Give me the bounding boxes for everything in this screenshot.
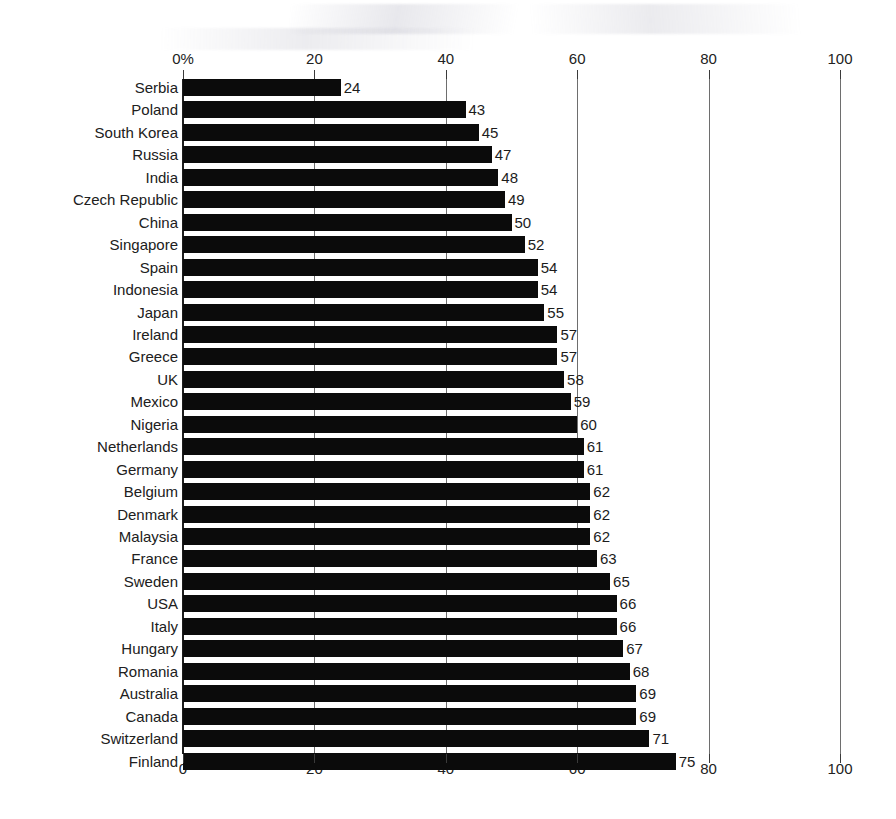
bar-row[interactable]: Singapore52: [0, 236, 896, 253]
category-label: Italy: [150, 618, 178, 635]
bar-value-label: 60: [577, 416, 597, 433]
bar-row[interactable]: Serbia24: [0, 79, 896, 96]
bar[interactable]: [183, 730, 649, 747]
bar-row[interactable]: Malaysia62: [0, 528, 896, 545]
bar-value-label: 24: [341, 79, 361, 96]
bar[interactable]: [183, 483, 590, 500]
bar-value-label: 67: [623, 640, 643, 657]
category-label: Sweden: [124, 573, 178, 590]
bar-value-label: 69: [636, 708, 656, 725]
bar[interactable]: [183, 708, 636, 725]
category-label: India: [145, 169, 178, 186]
bar-value-label: 45: [479, 124, 499, 141]
bar-value-label: 48: [498, 169, 518, 186]
bar[interactable]: [183, 214, 512, 231]
bar-row[interactable]: Finland75: [0, 753, 896, 770]
bar-row[interactable]: USA66: [0, 595, 896, 612]
bar[interactable]: [183, 393, 571, 410]
bar[interactable]: [183, 79, 341, 96]
bar-row[interactable]: Denmark62: [0, 506, 896, 523]
bar[interactable]: [183, 685, 636, 702]
bar[interactable]: [183, 753, 676, 770]
bar[interactable]: [183, 506, 590, 523]
category-label: China: [139, 214, 178, 231]
scan-artifact: [290, 4, 890, 34]
bar[interactable]: [183, 348, 557, 365]
category-label: Malaysia: [119, 528, 178, 545]
bar[interactable]: [183, 416, 577, 433]
bar-value-label: 66: [617, 618, 637, 635]
bar-value-label: 68: [630, 663, 650, 680]
bar-row[interactable]: Australia69: [0, 685, 896, 702]
category-label: Czech Republic: [73, 191, 178, 208]
tick-mark-top-100: [840, 70, 841, 79]
bar-row[interactable]: India48: [0, 169, 896, 186]
category-label: South Korea: [95, 124, 178, 141]
bar[interactable]: [183, 281, 538, 298]
bar[interactable]: [183, 595, 617, 612]
bar[interactable]: [183, 236, 525, 253]
category-label: Greece: [129, 348, 178, 365]
x-tick-label-top-5: 100: [827, 50, 852, 68]
bar[interactable]: [183, 169, 498, 186]
bar[interactable]: [183, 618, 617, 635]
bar[interactable]: [183, 259, 538, 276]
tick-mark-bottom-40: [446, 754, 447, 763]
bar-row[interactable]: Sweden65: [0, 573, 896, 590]
bar-row[interactable]: UK58: [0, 371, 896, 388]
bar-value-label: 62: [590, 506, 610, 523]
bar-row[interactable]: Czech Republic49: [0, 191, 896, 208]
bar[interactable]: [183, 573, 610, 590]
bar-row[interactable]: Ireland57: [0, 326, 896, 343]
bar[interactable]: [183, 371, 564, 388]
bar-row[interactable]: Greece57: [0, 348, 896, 365]
bar[interactable]: [183, 304, 544, 321]
tick-mark-bottom-80: [709, 754, 710, 763]
bar-row[interactable]: Italy66: [0, 618, 896, 635]
bar[interactable]: [183, 191, 505, 208]
bar[interactable]: [183, 101, 466, 118]
category-label: USA: [147, 595, 178, 612]
bar-row[interactable]: Canada69: [0, 708, 896, 725]
bar-row[interactable]: Romania68: [0, 663, 896, 680]
bar[interactable]: [183, 528, 590, 545]
bar-row[interactable]: Mexico59: [0, 393, 896, 410]
bar-row[interactable]: Switzerland71: [0, 730, 896, 747]
bar[interactable]: [183, 146, 492, 163]
x-tick-label-top-0: 0%: [172, 50, 194, 68]
bar-row[interactable]: Belgium62: [0, 483, 896, 500]
bar[interactable]: [183, 438, 584, 455]
category-label: Romania: [118, 663, 178, 680]
bar-value-label: 47: [492, 146, 512, 163]
bar-value-label: 61: [584, 438, 604, 455]
bar-value-label: 49: [505, 191, 525, 208]
bar-row[interactable]: France63: [0, 550, 896, 567]
bar-row[interactable]: South Korea45: [0, 124, 896, 141]
bar-value-label: 65: [610, 573, 630, 590]
bar-row[interactable]: Germany61: [0, 461, 896, 478]
x-tick-label-top-2: 40: [437, 50, 454, 68]
bar-row[interactable]: Spain54: [0, 259, 896, 276]
bar-row[interactable]: Japan55: [0, 304, 896, 321]
bar-value-label: 62: [590, 483, 610, 500]
category-label: Russia: [132, 146, 178, 163]
bar[interactable]: [183, 640, 623, 657]
bar-row[interactable]: Russia47: [0, 146, 896, 163]
bar-row[interactable]: Hungary67: [0, 640, 896, 657]
bar-row[interactable]: China50: [0, 214, 896, 231]
bar-row[interactable]: Poland43: [0, 101, 896, 118]
bar[interactable]: [183, 461, 584, 478]
bar[interactable]: [183, 124, 479, 141]
bar-row[interactable]: Indonesia54: [0, 281, 896, 298]
bar[interactable]: [183, 550, 597, 567]
category-label: Switzerland: [100, 730, 178, 747]
bar-row[interactable]: Nigeria60: [0, 416, 896, 433]
x-axis-top: 0%20406080100: [0, 50, 896, 70]
bar[interactable]: [183, 663, 630, 680]
bar-chart: 0%20406080100 020406080100 Serbia24Polan…: [0, 0, 896, 819]
category-label: Mexico: [130, 393, 178, 410]
bar[interactable]: [183, 326, 557, 343]
tick-mark-top-0: [183, 70, 184, 79]
bar-row[interactable]: Netherlands61: [0, 438, 896, 455]
bar-value-label: 62: [590, 528, 610, 545]
